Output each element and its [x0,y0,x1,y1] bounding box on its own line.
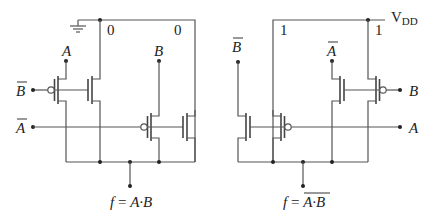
rail-value-0b: 0 [174,22,182,38]
input-label-b-bar: B [16,83,25,99]
rail-value-1a: 1 [280,22,288,38]
input-label-a: A [61,43,72,59]
rail-value-0a: 0 [107,22,115,38]
rail-value-1b: 1 [375,22,383,38]
output-equation-and: f = A·B [110,194,152,210]
pmos-transistor-t1: A [33,43,88,162]
pmos-transistor-t3 [141,61,159,162]
nmos-transistor-t4 [183,110,195,162]
right-circuit: VDD 1 1 B A A [232,9,419,210]
left-circuit: 0 0 A B B [15,18,195,210]
inversion-bubble [141,124,147,130]
input-label-b: B [154,43,163,59]
ground-rail [78,20,195,162]
input-node-b-bar [31,88,35,92]
output-node [128,184,132,188]
input-label-a-bar-top: A [326,43,337,59]
circuit-diagram: 0 0 A B B [0,0,438,223]
ground-icon [70,20,86,32]
output-node [301,184,305,188]
input-node-a [398,125,402,129]
pmos-transistor-t4 [368,20,386,162]
nmos-transistor-t1 [238,62,250,162]
inversion-bubble [285,124,291,130]
pmos-transistor-t2 [273,110,291,162]
nmos-transistor-t3 [332,61,344,162]
vdd-label: VDD [391,9,418,27]
input-label-a-bar: A [15,120,26,136]
output-equation-nand: f = A·B [283,194,325,210]
inversion-bubble [48,87,54,93]
input-label-b-right: B [409,83,418,99]
input-node-b [398,88,402,92]
nmos-transistor-t2 [88,20,100,162]
inversion-bubble [380,87,386,93]
input-label-a-right: A [408,120,419,136]
input-label-b-bar-top: B [232,39,241,55]
